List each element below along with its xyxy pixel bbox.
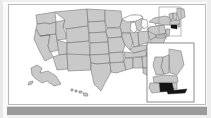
state-connecticut-highlight bbox=[171, 25, 177, 29]
state-minnesota bbox=[105, 10, 122, 28]
state-oklahoma bbox=[90, 54, 110, 64]
us-map-graphic[interactable]: .st{fill:#c9c9c9;stroke:#6e6e6e;stroke-w… bbox=[9, 5, 206, 105]
hawaii-inset-group bbox=[71, 89, 88, 96]
state-new-mexico bbox=[67, 54, 91, 71]
state-mississippi bbox=[124, 58, 133, 70]
hawaii-island-maui bbox=[79, 91, 82, 93]
state-south-dakota bbox=[88, 21, 106, 33]
state-missouri bbox=[108, 37, 125, 53]
hawaii-island-hawaii bbox=[83, 93, 88, 96]
page-frame: .st{fill:#c9c9c9;stroke:#6e6e6e;stroke-w… bbox=[0, 0, 211, 118]
inset-state-massachusetts bbox=[153, 75, 178, 83]
state-wyoming bbox=[66, 26, 89, 43]
state-kansas bbox=[90, 42, 109, 55]
state-iowa bbox=[106, 28, 122, 38]
state-alabama bbox=[133, 57, 143, 68]
state-new-york bbox=[149, 16, 172, 25]
state-arkansas bbox=[109, 52, 124, 63]
state-new-hampshire bbox=[173, 13, 177, 20]
screenshot-viewport: .st{fill:#c9c9c9;stroke:#6e6e6e;stroke-w… bbox=[0, 0, 211, 118]
state-texas bbox=[91, 63, 111, 91]
bottom-edge-shadow bbox=[7, 115, 207, 118]
state-colorado bbox=[67, 41, 90, 56]
state-rhode-island bbox=[178, 24, 180, 27]
map-card[interactable]: .st{fill:#c9c9c9;stroke:#6e6e6e;stroke-w… bbox=[8, 4, 206, 105]
northeast-states-group bbox=[148, 8, 185, 36]
alaska-inset-group bbox=[28, 65, 61, 86]
state-utah bbox=[57, 40, 67, 55]
state-north-dakota bbox=[87, 9, 105, 22]
state-washington bbox=[36, 12, 56, 24]
alaska-aleutian-islands bbox=[28, 81, 33, 85]
hawaii-island-kauai bbox=[71, 89, 73, 91]
hawaii-island-oahu bbox=[75, 90, 77, 92]
state-arizona bbox=[53, 54, 68, 70]
new-england-inset-panel bbox=[147, 43, 194, 102]
western-states-group bbox=[34, 9, 91, 71]
state-louisiana bbox=[110, 62, 126, 73]
state-vermont bbox=[169, 13, 173, 20]
state-nebraska bbox=[89, 32, 108, 43]
